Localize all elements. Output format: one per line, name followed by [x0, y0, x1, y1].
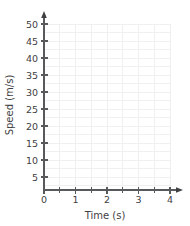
y-tick-label-10: 10 — [26, 155, 38, 166]
chart-canvas: 50 45 40 35 30 25 20 15 10 5 0 1 — [0, 0, 190, 226]
x-tick-label-1: 1 — [72, 194, 78, 205]
y-tick-label-20: 20 — [26, 121, 38, 132]
y-tick-label-15: 15 — [26, 138, 38, 149]
y-tick-label-5: 5 — [32, 172, 38, 183]
y-tick-label-50: 50 — [26, 19, 38, 30]
y-tick-label-45: 45 — [26, 36, 38, 47]
x-axis-title: Time (s) — [84, 210, 126, 221]
y-tick-label-30: 30 — [26, 87, 38, 98]
x-tick-label-4: 4 — [167, 194, 173, 205]
x-tick-label-3: 3 — [135, 194, 141, 205]
x-tick-label-2: 2 — [104, 194, 110, 205]
y-axis-title: Speed (m/s) — [4, 75, 15, 136]
y-tick-label-35: 35 — [26, 70, 38, 81]
speed-time-chart: 50 45 40 35 30 25 20 15 10 5 0 1 — [0, 0, 190, 226]
y-tick-label-25: 25 — [26, 104, 38, 115]
x-tick-label-0: 0 — [41, 194, 47, 205]
y-tick-label-40: 40 — [26, 53, 38, 64]
